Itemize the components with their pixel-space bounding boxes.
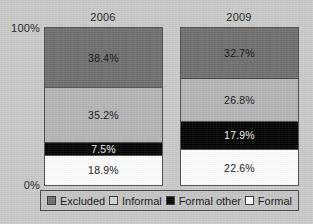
legend-swatch-icon <box>166 196 175 205</box>
segment-value-label: 26.8% <box>224 94 255 106</box>
legend-item-formal-other: Formal other <box>166 195 241 207</box>
chart-legend: Excluded Informal Formal other Formal <box>40 190 299 211</box>
legend-label: Formal <box>258 195 292 207</box>
category-label-2009: 2009 <box>180 11 298 23</box>
segment-value-label: 32.7% <box>224 47 255 59</box>
segment-value-label: 7.5% <box>91 143 116 155</box>
bar-2006: 38.4% 35.2% 7.5% 18.9% <box>44 27 163 186</box>
bar-2009: 32.7% 26.8% 17.9% 22.6% <box>180 27 299 186</box>
legend-item-excluded: Excluded <box>47 195 105 207</box>
segment-value-label: 22.6% <box>224 162 255 174</box>
segment-excluded-2006: 38.4% <box>45 28 162 87</box>
segment-formal-other-2006: 7.5% <box>45 142 162 155</box>
legend-label: Informal <box>122 195 162 207</box>
legend-label: Formal other <box>179 195 241 207</box>
segment-formal-2006: 18.9% <box>45 155 162 185</box>
segment-formal-2009: 22.6% <box>181 149 298 185</box>
y-axis-bottom-tick-label: 0% <box>0 179 40 191</box>
segment-excluded-2009: 32.7% <box>181 28 298 78</box>
y-axis-top-tick-label: 100% <box>0 22 40 34</box>
legend-item-informal: Informal <box>109 195 162 207</box>
legend-swatch-icon <box>47 196 56 205</box>
segment-informal-2006: 35.2% <box>45 87 162 142</box>
segment-value-label: 17.9% <box>224 129 255 141</box>
legend-label: Excluded <box>60 195 105 207</box>
segment-value-label: 35.2% <box>88 109 119 121</box>
segment-value-label: 18.9% <box>88 164 119 176</box>
segment-informal-2009: 26.8% <box>181 78 298 120</box>
legend-swatch-icon <box>245 196 254 205</box>
legend-item-formal: Formal <box>245 195 292 207</box>
category-label-2006: 2006 <box>44 11 162 23</box>
segment-value-label: 38.4% <box>88 52 119 64</box>
legend-swatch-icon <box>109 196 118 205</box>
segment-formal-other-2009: 17.9% <box>181 121 298 150</box>
stacked-bar-chart: 100% 0% 2006 2009 38.4% 35.2% 7.5% 18.9%… <box>0 0 313 224</box>
